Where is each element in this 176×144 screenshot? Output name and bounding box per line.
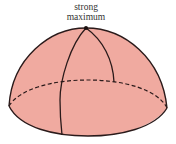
hemisphere-diagram [0,0,176,144]
dome-body [9,28,167,136]
strong-maximum-point [84,26,88,30]
